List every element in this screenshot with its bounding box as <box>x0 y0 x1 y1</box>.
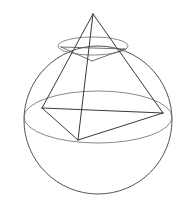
tetrahedron-lateral-edges <box>42 14 163 140</box>
edge-base-left-to-base-right <box>42 108 163 113</box>
edge-apex-to-base-right <box>93 14 163 113</box>
sphere-outline <box>24 46 172 194</box>
inner-triangle-edges <box>61 47 125 61</box>
edge-apex-to-base-front <box>78 14 93 140</box>
edge-base-left-to-base-front <box>42 108 78 140</box>
sphere-group <box>24 46 172 194</box>
edge-apex-to-base-left <box>42 14 93 108</box>
tetrahedron-in-sphere-diagram: Tetrahedron inscribed in a sphere Line d… <box>0 0 180 212</box>
edge-base-front-to-base-right <box>78 113 163 140</box>
tetrahedron-base-edges <box>42 108 163 140</box>
figure-root: Tetrahedron inscribed in a sphere Line d… <box>0 0 180 212</box>
